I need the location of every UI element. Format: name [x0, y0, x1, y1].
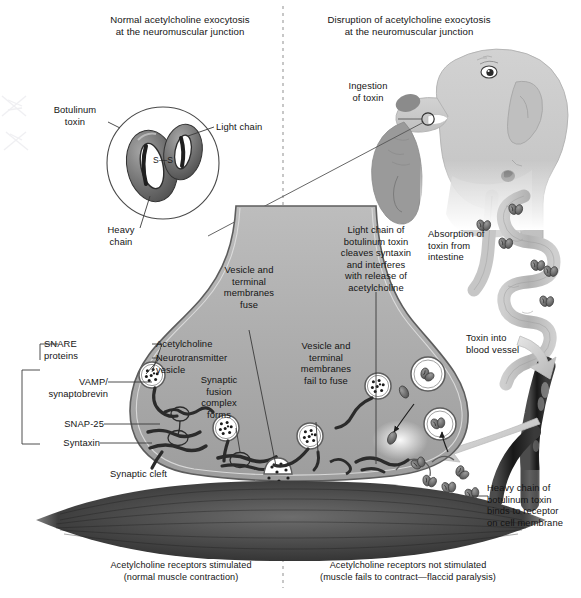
dog-jaw: [372, 122, 423, 224]
label-snap-25: SNAP-25: [30, 418, 104, 430]
panel-title-right: Disruption of acetylcholine exocytosis a…: [294, 14, 524, 38]
label-neurotransmitter-vesicle: Neurotransmitter vesicle: [156, 352, 268, 375]
label-syntaxin: Syntaxin: [34, 437, 100, 449]
label-vesicle-fail: Vesicle and terminal membranes fail to f…: [286, 340, 366, 386]
endosome-with-toxin-lower: [424, 408, 456, 440]
label-acetylcholine: Acetylcholine: [156, 338, 252, 350]
caption-right: Acetylcholine receptors not stimulated (…: [292, 560, 524, 583]
botulinum-toxin-inset: S—S: [107, 107, 219, 228]
disulfide-bond-label: S—S: [153, 155, 173, 165]
label-vesicle-fuse: Vesicle and terminal membranes fuse: [206, 264, 292, 310]
label-botulinum-toxin: Botulinum toxin: [42, 104, 108, 127]
label-toxin-into-blood-vessel: Toxin into blood vessel: [466, 332, 542, 355]
label-snare-proteins: SNARE proteins: [44, 338, 106, 361]
label-light-chain-cleaves: Light chain of botulinum toxin cleaves s…: [318, 224, 434, 294]
endosome-with-toxin-upper: [411, 357, 445, 391]
figure-canvas: S—S Normal acetylcholine exo: [0, 0, 581, 598]
label-fusion-complex: Synaptic fusion complex forms: [188, 374, 250, 420]
label-heavy-chain: Heavy chain: [98, 224, 144, 247]
dna-watermark-icon: [2, 96, 28, 150]
vesicle-unfused-left: [297, 423, 323, 449]
label-light-chain: Light chain: [216, 121, 296, 133]
label-ingestion-of-toxin: Ingestion of toxin: [334, 80, 402, 103]
vesicle-unfused-right: [365, 373, 391, 399]
label-synaptic-cleft: Synaptic cleft: [110, 468, 206, 480]
label-absorption: Absorption of toxin from intestine: [428, 228, 508, 263]
panel-title-left: Normal acetylcholine exocytosis at the n…: [86, 14, 274, 38]
label-vamp-synaptobrevin: VAMP/ synaptobrevin: [16, 376, 108, 399]
caption-left: Acetylcholine receptors stimulated (norm…: [86, 560, 276, 583]
label-heavy-chain-binds: Heavy chain of botulinum toxin binds to …: [487, 482, 581, 528]
leader-botulinum-toxin: [108, 122, 120, 128]
